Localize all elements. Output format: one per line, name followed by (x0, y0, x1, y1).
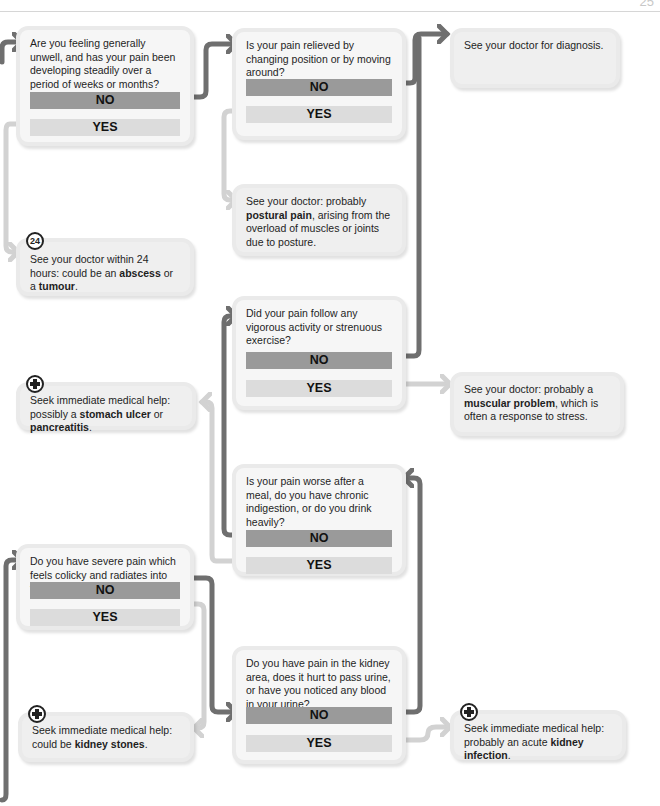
no-button[interactable]: NO (246, 707, 392, 724)
result-text-tail: . (145, 738, 148, 750)
result-text: See your doctor: probably (246, 195, 366, 207)
diagnosis-term: postural pain (246, 209, 312, 221)
result-kidney-infection: Seek immediate medical help: probably an… (450, 710, 626, 760)
diagnosis-term: pancreatitis (30, 421, 89, 433)
question-text: Is your pain relieved by changing positi… (246, 39, 392, 80)
no-button[interactable]: NO (246, 530, 392, 547)
question-meal: Is your pain worse after a meal, do you … (232, 464, 406, 576)
diagnosis-term: tumour (39, 280, 75, 292)
connector-vigorous-no (404, 38, 419, 356)
question-text: Do you have pain in the kidney area, doe… (246, 657, 392, 711)
yes-button[interactable]: YES (30, 119, 180, 136)
medical-cross-icon (28, 705, 46, 723)
question-text: Did your pain follow any vigorous activi… (246, 307, 392, 348)
page-header-rule (0, 11, 660, 12)
yes-button[interactable]: YES (30, 609, 180, 626)
medical-cross-icon (460, 703, 478, 721)
diagnosis-term: stomach ulcer (80, 408, 151, 420)
result-stomach-ulcer: Seek immediate medical help: possibly a … (16, 382, 196, 430)
no-button[interactable]: NO (30, 92, 180, 109)
yes-button[interactable]: YES (246, 735, 392, 752)
question-unwell: Are you feeling generally unwell, and ha… (16, 26, 194, 146)
diagnosis-term: kidney stones (75, 738, 145, 750)
question-relieved: Is your pain relieved by changing positi… (232, 28, 406, 140)
24-hours-icon: 24 (26, 232, 44, 250)
result-kidney-stones: Seek immediate medical help: could be ki… (18, 712, 194, 762)
no-button[interactable]: NO (30, 582, 180, 599)
result-text: See your doctor for diagnosis. (464, 39, 604, 51)
yes-button[interactable]: YES (246, 106, 392, 123)
no-button[interactable]: NO (246, 352, 392, 369)
connector-colicky-no (188, 578, 236, 712)
result-text-tail: . (89, 421, 92, 433)
result-text-mid: or (151, 408, 163, 420)
question-colicky: Do you have severe pain which feels coli… (16, 544, 194, 630)
question-text: Are you feeling generally unwell, and ha… (30, 37, 180, 91)
medical-cross-icon (26, 375, 44, 393)
result-diagnosis: See your doctor for diagnosis. (450, 28, 620, 88)
question-vigorous: Did your pain follow any vigorous activi… (232, 296, 406, 410)
result-text-tail: . (508, 749, 511, 761)
result-text-tail: . (75, 280, 78, 292)
connector-kidney-yes (404, 727, 450, 740)
connector-kidney-no (404, 478, 420, 712)
yes-button[interactable]: YES (246, 557, 392, 574)
result-postural-pain: See your doctor: probably postural pain,… (232, 184, 406, 256)
question-kidney: Do you have pain in the kidney area, doe… (232, 646, 406, 764)
result-abscess-tumour: 24 See your doctor within 24 hours: coul… (16, 238, 194, 296)
page-number: 25 (640, 0, 654, 9)
result-muscular-problem: See your doctor: probably a muscular pro… (450, 372, 624, 436)
diagnosis-term: abscess (119, 267, 160, 279)
diagnosis-term: muscular problem (464, 397, 555, 409)
question-text: Is your pain worse after a meal, do you … (246, 475, 392, 529)
result-text: See your doctor: probably a (464, 383, 593, 395)
no-button[interactable]: NO (246, 79, 392, 96)
yes-button[interactable]: YES (246, 380, 392, 397)
